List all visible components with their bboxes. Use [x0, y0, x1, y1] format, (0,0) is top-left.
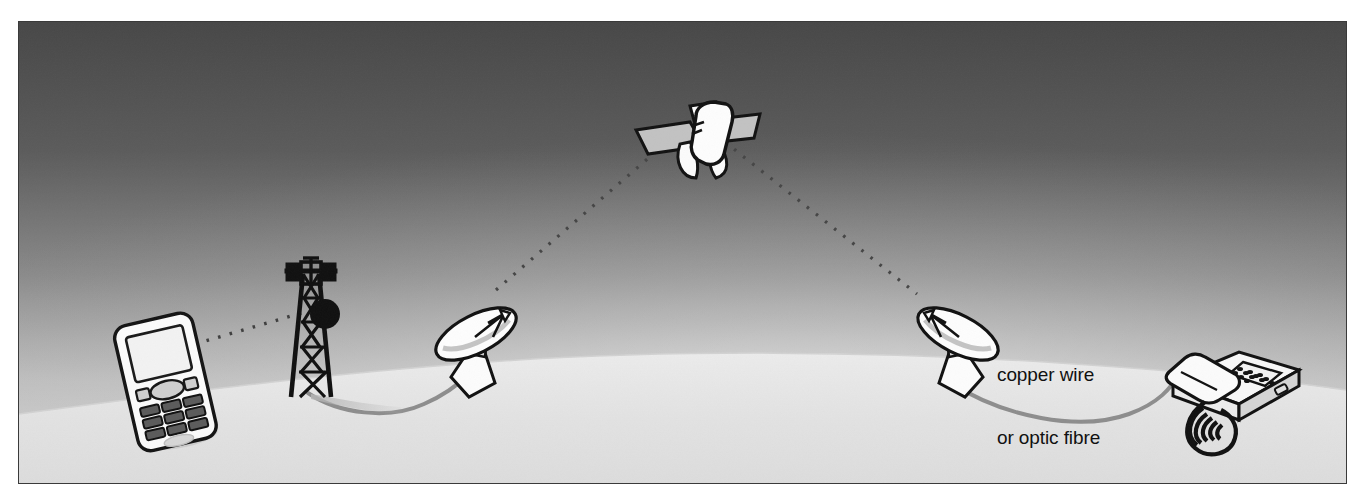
diagram-stage: copper wire or optic fibre [0, 0, 1364, 501]
telecom-scene [19, 22, 1346, 483]
cable-label-line-2: or optic fibre [997, 427, 1100, 448]
diagram-frame: copper wire or optic fibre [18, 21, 1347, 484]
cable-label: copper wire or optic fibre [997, 322, 1100, 484]
cable-label-line-1: copper wire [997, 364, 1100, 385]
paper-grain-overlay [19, 22, 1346, 483]
